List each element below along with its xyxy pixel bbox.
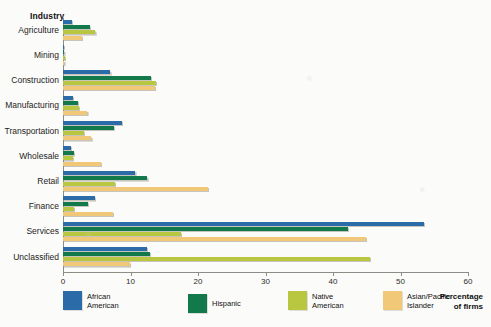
x-tick-0 bbox=[63, 272, 64, 276]
legend-label-line1: Native bbox=[312, 292, 344, 301]
x-tick-40 bbox=[333, 272, 334, 276]
category-label-manufacturing: Manufacturing bbox=[5, 100, 59, 110]
x-tick-10 bbox=[131, 272, 132, 276]
x-tick-50 bbox=[401, 272, 402, 276]
bar-agriculture-native-american[interactable] bbox=[63, 30, 95, 34]
category-label-unclassified: Unclassified bbox=[13, 252, 59, 262]
x-tick-label-40: 40 bbox=[329, 277, 338, 286]
category-label-services: Services bbox=[26, 226, 59, 236]
legend-label-hispanic: Hispanic bbox=[212, 299, 241, 308]
legend-item-hispanic[interactable]: Hispanic bbox=[188, 294, 241, 313]
bar-shadow bbox=[64, 46, 65, 50]
bar-mining-hispanic[interactable] bbox=[63, 50, 64, 54]
category-row bbox=[63, 247, 468, 272]
legend-label-line1: Asian/Pacific bbox=[407, 292, 450, 301]
bar-construction-african-american[interactable] bbox=[63, 70, 110, 74]
legend-label-line1: African bbox=[87, 292, 119, 301]
bar-manufacturing-african-american[interactable] bbox=[63, 96, 73, 100]
bar-finance-asian-pacific-islander[interactable] bbox=[63, 212, 113, 216]
bar-manufacturing-asian-pacific-islander[interactable] bbox=[63, 111, 87, 115]
bar-agriculture-hispanic[interactable] bbox=[63, 25, 90, 29]
bar-mining-african-american[interactable] bbox=[63, 45, 64, 49]
bar-unclassified-native-american[interactable] bbox=[63, 257, 370, 261]
category-label-wholesale: Wholesale bbox=[19, 151, 59, 161]
bar-mining-native-american[interactable] bbox=[63, 56, 65, 60]
industry-axis-title: Industry bbox=[30, 11, 64, 21]
bar-transportation-hispanic[interactable] bbox=[63, 126, 114, 130]
x-tick-20 bbox=[198, 272, 199, 276]
legend-swatch-asian-pacific-islander bbox=[383, 291, 402, 310]
legend-item-native-american[interactable]: NativeAmerican bbox=[288, 291, 344, 310]
legend-label-asian-pacific-islander: Asian/PacificIslander bbox=[407, 292, 450, 310]
bar-retail-hispanic[interactable] bbox=[63, 176, 147, 180]
legend-swatch-hispanic bbox=[188, 294, 207, 313]
chart-legend: AfricanAmericanHispanicNativeAmericanAsi… bbox=[63, 291, 393, 321]
legend-label-line2: American bbox=[312, 301, 344, 310]
bar-unclassified-african-american[interactable] bbox=[63, 247, 147, 251]
bar-construction-hispanic[interactable] bbox=[63, 76, 151, 80]
bar-agriculture-asian-pacific-islander[interactable] bbox=[63, 36, 82, 40]
bar-construction-asian-pacific-islander[interactable] bbox=[63, 86, 155, 90]
legend-item-african-american[interactable]: AfricanAmerican bbox=[63, 291, 119, 310]
bar-mining-asian-pacific-islander[interactable] bbox=[63, 61, 64, 65]
bar-finance-hispanic[interactable] bbox=[63, 202, 88, 206]
x-tick-label-0: 0 bbox=[61, 277, 65, 286]
category-label-agriculture: Agriculture bbox=[18, 25, 59, 35]
legend-label-african-american: AfricanAmerican bbox=[87, 292, 119, 310]
legend-label-native-american: NativeAmerican bbox=[312, 292, 344, 310]
bar-services-native-american[interactable] bbox=[63, 232, 181, 236]
bar-manufacturing-hispanic[interactable] bbox=[63, 101, 78, 105]
legend-label-line2: American bbox=[87, 301, 119, 310]
category-row bbox=[63, 222, 468, 247]
bar-retail-african-american[interactable] bbox=[63, 171, 135, 175]
bar-wholesale-hispanic[interactable] bbox=[63, 151, 74, 155]
x-tick-label-10: 10 bbox=[126, 277, 135, 286]
category-row bbox=[63, 70, 468, 95]
bar-wholesale-asian-pacific-islander[interactable] bbox=[63, 162, 101, 166]
x-tick-60 bbox=[468, 272, 469, 276]
bar-agriculture-african-american[interactable] bbox=[63, 20, 72, 24]
category-label-retail: Retail bbox=[37, 176, 59, 186]
bar-wholesale-native-american[interactable] bbox=[63, 156, 73, 160]
bar-manufacturing-native-american[interactable] bbox=[63, 106, 79, 110]
x-tick-label-60: 60 bbox=[464, 277, 473, 286]
x-tick-label-20: 20 bbox=[194, 277, 203, 286]
category-row bbox=[63, 196, 468, 221]
chart-root: Industry 0102030405060 AgricultureMining… bbox=[0, 0, 491, 327]
category-label-transportation: Transportation bbox=[5, 126, 60, 136]
bar-transportation-african-american[interactable] bbox=[63, 121, 122, 125]
legend-item-asian-pacific-islander[interactable]: Asian/PacificIslander bbox=[383, 291, 450, 310]
x-tick-label-50: 50 bbox=[396, 277, 405, 286]
bar-transportation-asian-pacific-islander[interactable] bbox=[63, 136, 91, 140]
bar-services-asian-pacific-islander[interactable] bbox=[63, 237, 366, 241]
bar-services-african-american[interactable] bbox=[63, 222, 424, 226]
bar-construction-native-american[interactable] bbox=[63, 81, 156, 85]
bar-finance-african-american[interactable] bbox=[63, 196, 95, 200]
legend-label-line1: Hispanic bbox=[212, 299, 241, 308]
category-row bbox=[63, 121, 468, 146]
bar-transportation-native-american[interactable] bbox=[63, 131, 84, 135]
bar-retail-asian-pacific-islander[interactable] bbox=[63, 187, 208, 191]
category-row bbox=[63, 171, 468, 196]
bar-finance-native-american[interactable] bbox=[63, 207, 74, 211]
bar-retail-native-american[interactable] bbox=[63, 182, 115, 186]
legend-swatch-native-american bbox=[288, 291, 307, 310]
bar-services-hispanic[interactable] bbox=[63, 227, 348, 231]
x-tick-30 bbox=[266, 272, 267, 276]
legend-swatch-african-american bbox=[63, 291, 82, 310]
bar-shadow bbox=[64, 62, 65, 66]
legend-label-line2: Islander bbox=[407, 301, 450, 310]
category-row bbox=[63, 45, 468, 70]
x-tick-label-30: 30 bbox=[261, 277, 270, 286]
category-label-mining: Mining bbox=[34, 50, 59, 60]
category-label-finance: Finance bbox=[29, 201, 59, 211]
bar-unclassified-hispanic[interactable] bbox=[63, 252, 150, 256]
category-row bbox=[63, 146, 468, 171]
category-label-construction: Construction bbox=[11, 75, 59, 85]
bar-wholesale-african-american[interactable] bbox=[63, 146, 71, 150]
category-row bbox=[63, 96, 468, 121]
category-row bbox=[63, 20, 468, 45]
bar-unclassified-asian-pacific-islander[interactable] bbox=[63, 262, 130, 266]
